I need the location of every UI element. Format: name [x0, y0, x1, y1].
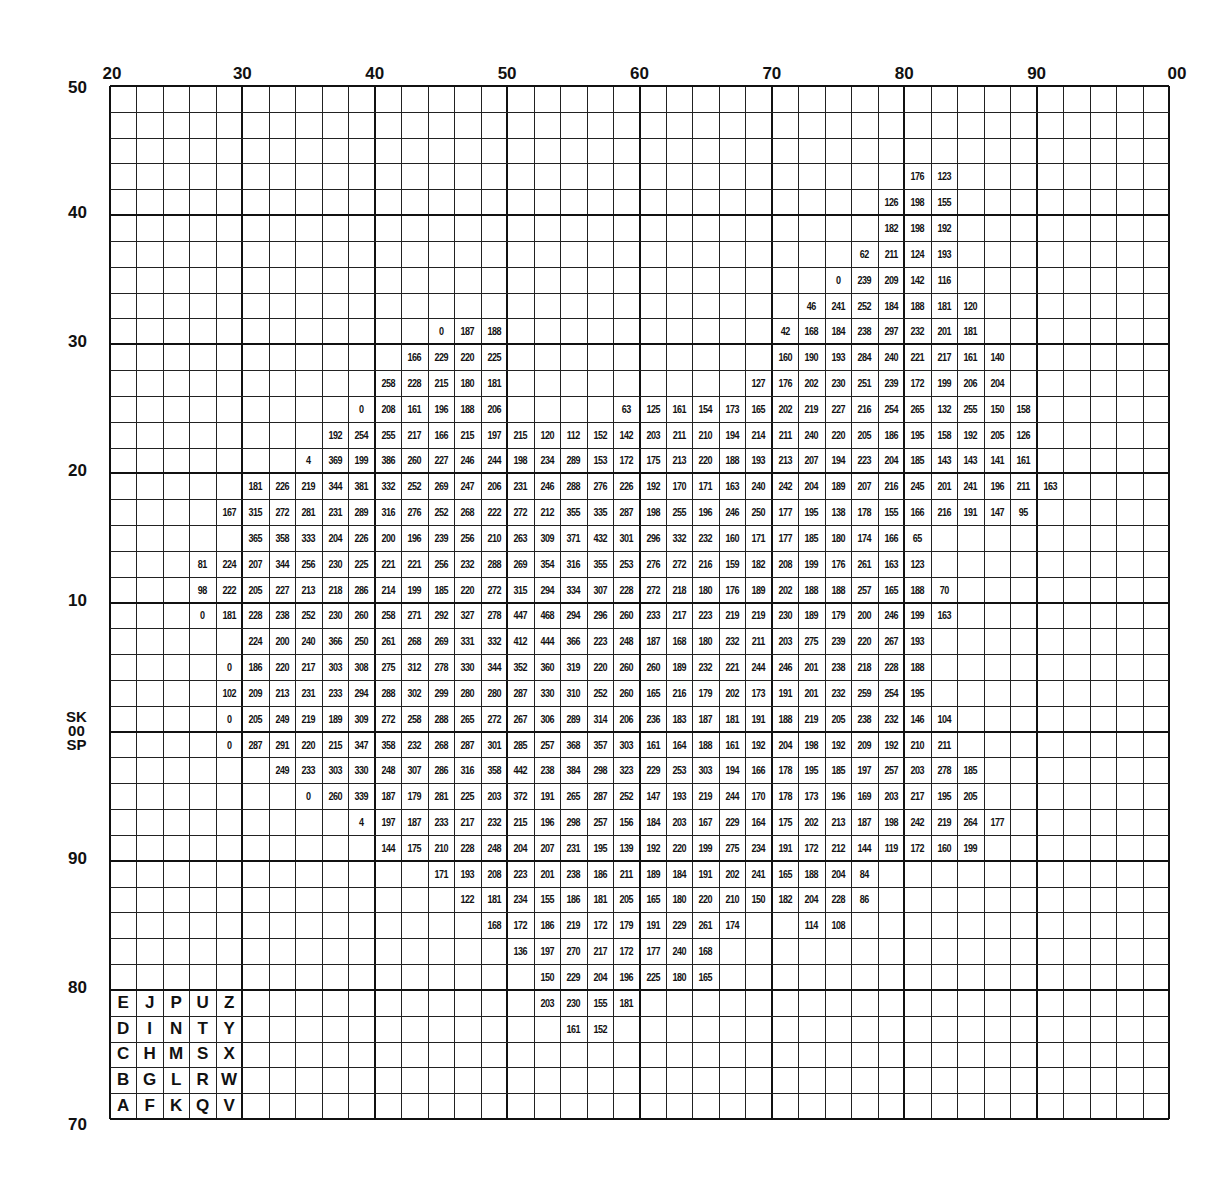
grid-cell-value: 236: [642, 706, 664, 732]
grid-cell-value: 225: [457, 783, 479, 809]
grid-cell-value: 223: [510, 861, 532, 887]
grid-cell-value: 242: [907, 809, 929, 835]
y-tick-label: 20: [68, 461, 87, 481]
grid-line-horizontal: [110, 422, 1169, 423]
grid-cell-value: 173: [748, 680, 770, 706]
grid-cell-value: 220: [457, 344, 479, 370]
grid-cell-value: 220: [827, 422, 849, 448]
grid-cell-value: 219: [695, 783, 717, 809]
grid-cell-value: 165: [748, 396, 770, 422]
grid-cell-value: 187: [854, 809, 876, 835]
grid-cell-value: 191: [748, 706, 770, 732]
grid-cell-value: 255: [960, 396, 982, 422]
grid-line-horizontal: [110, 499, 1169, 500]
grid-cell-value: 168: [801, 318, 823, 344]
grid-cell-value: 156: [615, 809, 637, 835]
grid-cell-value: 220: [271, 654, 293, 680]
grid-cell-value: 189: [748, 577, 770, 603]
grid-cell-value: 203: [880, 783, 902, 809]
grid-line-horizontal: [110, 293, 1169, 294]
grid-cell-value: 330: [351, 757, 373, 783]
grid-cell-value: 172: [801, 835, 823, 861]
grid-cell-value: 327: [457, 603, 479, 629]
grid-cell-value: 232: [721, 628, 743, 654]
grid-cell-value: 169: [854, 783, 876, 809]
grid-cell-value: 238: [854, 706, 876, 732]
grid-cell-value: 206: [483, 396, 505, 422]
grid-cell-value: 310: [562, 680, 584, 706]
grid-cell-value: 286: [430, 757, 452, 783]
grid-cell-value: 193: [457, 861, 479, 887]
grid-cell-value: 210: [483, 525, 505, 551]
grid-line-horizontal: [110, 783, 1169, 784]
grid-cell-value: 187: [377, 783, 399, 809]
grid-cell-value: 172: [615, 938, 637, 964]
x-tick-label: 60: [630, 64, 649, 84]
grid-cell-value: 334: [562, 577, 584, 603]
grid-cell-value: 153: [589, 448, 611, 474]
grid-cell-value: 182: [880, 215, 902, 241]
grid-cell-value: 220: [589, 654, 611, 680]
grid-cell-value: 198: [907, 215, 929, 241]
grid-cell-value: 257: [880, 757, 902, 783]
legend-letter: G: [136, 1067, 162, 1093]
grid-cell-value: 144: [377, 835, 399, 861]
grid-line-horizontal: [110, 577, 1169, 578]
grid-cell-value: 316: [457, 757, 479, 783]
grid-cell-value: 165: [642, 680, 664, 706]
grid-cell-value: 332: [377, 473, 399, 499]
grid-cell-value: 197: [854, 757, 876, 783]
grid-cell-value: 232: [880, 706, 902, 732]
grid-cell-value: 307: [404, 757, 426, 783]
grid-cell-value: 189: [324, 706, 346, 732]
grid-cell-value: 355: [562, 499, 584, 525]
grid-cell-value: 287: [457, 732, 479, 758]
y-tick-label: 90: [68, 849, 87, 869]
grid-cell-value: 238: [854, 318, 876, 344]
grid-line-horizontal: [110, 396, 1169, 397]
legend-letter: D: [110, 1016, 136, 1042]
grid-cell-value: 143: [960, 448, 982, 474]
x-tick-label: 30: [233, 64, 252, 84]
grid-cell-value: 152: [589, 422, 611, 448]
grid-cell-value: 238: [271, 603, 293, 629]
grid-cell-value: 239: [827, 628, 849, 654]
grid-cell-value: 291: [271, 732, 293, 758]
grid-cell-value: 221: [721, 654, 743, 680]
grid-line-horizontal: [110, 551, 1169, 552]
grid-cell-value: 217: [907, 783, 929, 809]
grid-cell-value: 308: [351, 654, 373, 680]
grid-cell-value: 177: [774, 499, 796, 525]
grid-cell-value: 287: [615, 499, 637, 525]
grid-cell-value: 195: [907, 680, 929, 706]
grid-cell-value: 330: [536, 680, 558, 706]
grid-cell-value: 186: [245, 654, 267, 680]
grid-line-horizontal: [110, 370, 1169, 371]
grid-cell-value: 146: [907, 706, 929, 732]
grid-cell-value: 202: [801, 370, 823, 396]
grid-cell-value: 170: [748, 783, 770, 809]
grid-cell-value: 210: [721, 887, 743, 913]
grid-cell-value: 143: [933, 448, 955, 474]
legend-letter: B: [110, 1067, 136, 1093]
grid-cell-value: 179: [695, 680, 717, 706]
grid-cell-value: 182: [748, 551, 770, 577]
square-label-bottom: SP: [66, 738, 87, 752]
grid-cell-value: 120: [960, 293, 982, 319]
grid-cell-value: 188: [774, 706, 796, 732]
grid-cell-value: 294: [351, 680, 373, 706]
grid-cell-value: 205: [854, 422, 876, 448]
grid-cell-value: 187: [695, 706, 717, 732]
grid-cell-value: 245: [907, 473, 929, 499]
grid-cell-value: 184: [668, 861, 690, 887]
grid-cell-value: 191: [774, 680, 796, 706]
grid-cell-value: 203: [536, 990, 558, 1016]
grid-line-horizontal: [110, 989, 1169, 991]
grid-cell-value: 315: [245, 499, 267, 525]
grid-cell-value: 246: [880, 603, 902, 629]
grid-cell-value: 244: [721, 783, 743, 809]
grid-cell-value: 292: [430, 603, 452, 629]
grid-cell-value: 253: [668, 757, 690, 783]
grid-cell-value: 199: [907, 603, 929, 629]
grid-cell-value: 289: [351, 499, 373, 525]
